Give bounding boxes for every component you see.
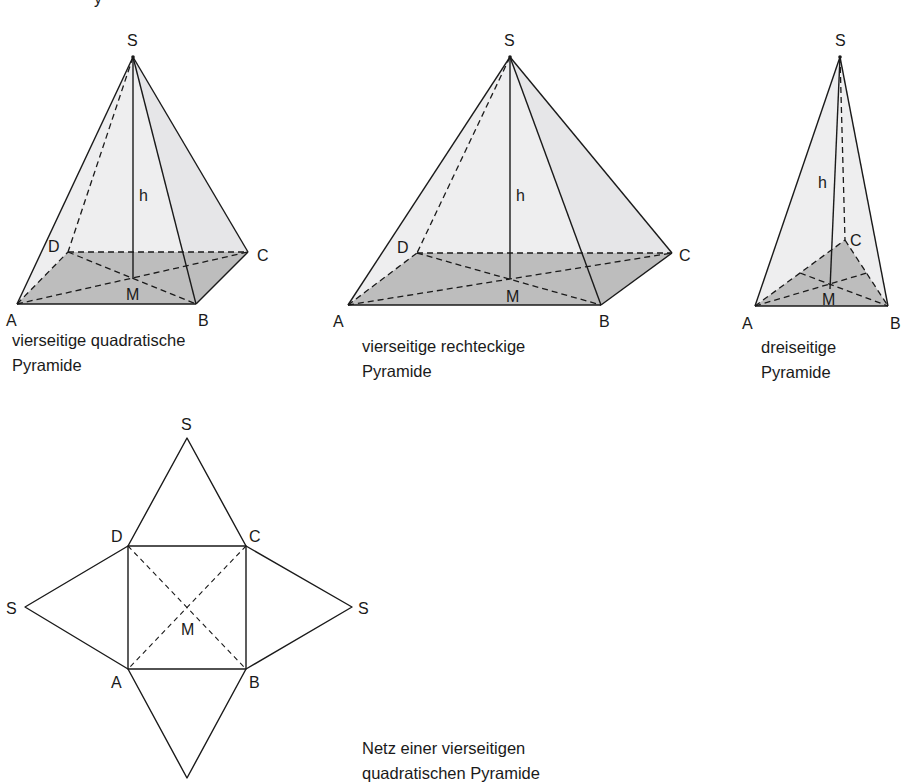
label-M: M: [126, 286, 139, 303]
label-h: h: [516, 187, 525, 204]
label-A: A: [6, 312, 17, 329]
pyramid-net: S S S D C A B M Netz einer vierseitigen …: [6, 416, 540, 782]
label-B: B: [890, 315, 901, 332]
label-D: D: [397, 239, 409, 256]
label-A: A: [111, 674, 122, 691]
label-B: B: [198, 312, 209, 329]
caption-line2: Pyramide: [761, 363, 831, 381]
label-C: C: [679, 247, 691, 264]
rectangular-pyramid: S h D C M A B vierseitige rechteckige Py…: [333, 32, 691, 380]
caption-line2: Pyramide: [12, 356, 82, 374]
caption-line2: Pyramide: [362, 362, 432, 380]
label-S: S: [504, 32, 515, 49]
net-face-bottom: [128, 669, 246, 778]
net-caption-line1: Netz einer vierseitigen: [362, 739, 525, 757]
label-A: A: [333, 313, 344, 330]
label-h: h: [139, 187, 148, 204]
label-S-left: S: [6, 600, 17, 617]
label-S: S: [127, 32, 138, 49]
square-pyramid: S h D C M A B vierseitige quadratische P…: [6, 32, 269, 374]
label-S-right: S: [358, 600, 369, 617]
apex-point: [131, 55, 135, 59]
label-S: S: [835, 32, 846, 49]
caption-line1: vierseitige rechteckige: [362, 337, 525, 355]
apex-point: [508, 55, 512, 59]
pyramids-diagram: y S h D C M A B vierseitige quadratische…: [0, 0, 907, 782]
label-A: A: [742, 315, 753, 332]
net-caption-line2: quadratischen Pyramide: [362, 764, 540, 782]
net-face-top: [128, 438, 246, 546]
caption-line1: dreiseitige: [761, 338, 836, 356]
net-face-left: [25, 546, 128, 669]
label-M: M: [181, 621, 194, 638]
label-B: B: [249, 674, 260, 691]
apex-point: [838, 55, 842, 59]
label-M: M: [506, 288, 519, 305]
caption-line1: vierseitige quadratische: [12, 331, 185, 349]
label-C: C: [850, 232, 862, 249]
label-S-top: S: [181, 416, 192, 433]
label-C: C: [257, 247, 269, 264]
net-face-right: [246, 546, 352, 669]
label-B: B: [599, 313, 610, 330]
label-D: D: [48, 238, 60, 255]
label-D: D: [111, 528, 123, 545]
label-M: M: [822, 291, 835, 308]
triangular-pyramid: S h C M A B dreiseitige Pyramide: [742, 32, 901, 381]
cropped-title-glyph: y: [94, 0, 102, 7]
label-C: C: [249, 528, 261, 545]
label-h: h: [818, 174, 827, 191]
